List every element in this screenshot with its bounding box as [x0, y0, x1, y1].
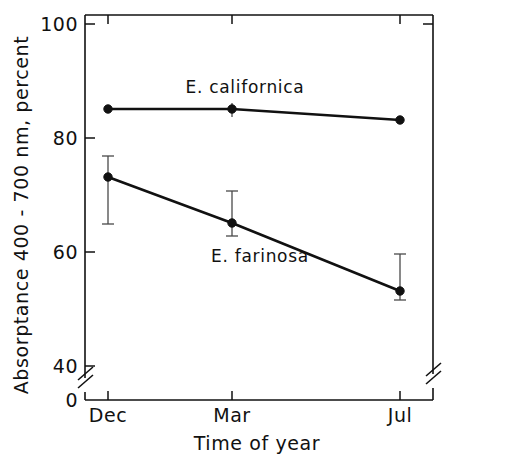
datapoint-e-californica-dec — [104, 105, 112, 113]
series-e-californica — [104, 103, 404, 124]
y-axis-ticks — [85, 24, 95, 366]
x-axis-ticks — [108, 15, 400, 400]
axis-break-marks — [78, 363, 441, 388]
datapoint-e-farinosa-dec — [104, 173, 112, 181]
y-tick-label-0: 0 — [65, 389, 78, 411]
x-tick-label-dec: Dec — [89, 404, 127, 426]
y-tick-label-40: 40 — [53, 355, 78, 377]
x-tick-label-mar: Mar — [213, 404, 250, 426]
line-chart-with-error-bars: 100 80 60 40 0 Dec Mar Jul Time of year … — [0, 0, 507, 460]
datapoint-e-californica-mar — [228, 105, 236, 113]
plot-frame — [85, 15, 433, 400]
series-line-e-farinosa — [108, 177, 400, 291]
y-tick-label-100: 100 — [40, 13, 78, 35]
x-tick-label-jul: Jul — [387, 404, 412, 426]
series-annotation-e-farinosa: E. farinosa — [211, 246, 309, 266]
y-tick-label-60: 60 — [53, 241, 78, 263]
x-axis-tick-labels: Dec Mar Jul — [89, 404, 412, 426]
datapoint-e-farinosa-mar — [228, 219, 236, 227]
series-e-farinosa — [102, 156, 406, 300]
series-line-e-californica — [108, 109, 400, 120]
datapoint-e-californica-jul — [396, 116, 404, 124]
y-axis-title: Absorptance 400 - 700 nm, percent — [10, 36, 32, 394]
y-tick-label-80: 80 — [53, 127, 78, 149]
chart-figure: 100 80 60 40 0 Dec Mar Jul Time of year … — [0, 0, 507, 460]
x-axis-title: Time of year — [193, 432, 320, 454]
errorbars-e-farinosa — [102, 156, 406, 300]
y-axis-tick-labels: 100 80 60 40 0 — [40, 13, 78, 411]
series-annotation-e-californica: E. californica — [186, 77, 305, 97]
datapoint-e-farinosa-jul — [396, 287, 404, 295]
